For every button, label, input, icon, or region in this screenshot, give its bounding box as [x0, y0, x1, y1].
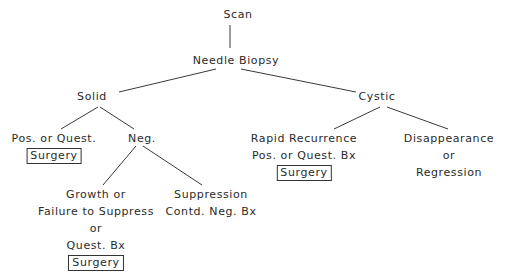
node-disappearance-line-3: Regression	[404, 164, 494, 181]
surgery-box: Surgery	[68, 255, 123, 271]
node-disappearance-line-2: or	[404, 147, 494, 164]
edge-cystic-rapid-recurrence	[334, 107, 380, 129]
node-growth-line-1: Growth or	[38, 186, 154, 203]
edge-solid-pos	[61, 107, 98, 129]
node-suppression-line-2: Contd. Neg. Bx	[165, 203, 256, 220]
decision-tree-diagram: Scan Needle Biopsy Solid Cystic Pos. or …	[0, 0, 511, 277]
node-suppression: Suppression Contd. Neg. Bx	[165, 186, 256, 220]
node-scan: Scan	[223, 6, 252, 23]
node-growth-line-4: Quest. Bx	[38, 237, 154, 254]
edge-solid-neg	[100, 107, 134, 129]
node-solid-pos: Pos. or Quest. Surgery	[12, 130, 97, 164]
node-rapid-recurrence-line-2: Pos. or Quest. Bx	[251, 147, 357, 164]
edge-needle-biopsy-solid	[119, 69, 216, 92]
node-growth: Growth or Failure to Suppress or Quest. …	[38, 186, 154, 271]
node-suppression-line-1: Suppression	[165, 186, 256, 203]
node-solid-label: Solid	[77, 88, 107, 105]
node-needle-biopsy: Needle Biopsy	[193, 52, 279, 69]
node-disappearance-line-1: Disappearance	[404, 130, 494, 147]
node-disappearance: Disappearance or Regression	[404, 130, 494, 181]
node-cystic: Cystic	[359, 88, 396, 105]
surgery-box: Surgery	[276, 165, 331, 181]
node-solid-neg: Neg.	[128, 130, 156, 147]
edge-neg-suppression	[143, 146, 202, 185]
edge-neg-growth	[103, 146, 136, 185]
node-growth-line-3: or	[38, 220, 154, 237]
node-rapid-recurrence-line-1: Rapid Recurrence	[251, 130, 357, 147]
surgery-box: Surgery	[26, 148, 81, 164]
edge-cystic-disappearance	[387, 107, 448, 129]
node-scan-label: Scan	[223, 6, 252, 23]
node-needle-biopsy-label: Needle Biopsy	[193, 52, 279, 69]
node-rapid-recurrence: Rapid Recurrence Pos. or Quest. Bx Surge…	[251, 130, 357, 181]
node-solid-neg-label: Neg.	[128, 130, 156, 147]
node-solid: Solid	[77, 88, 107, 105]
node-solid-pos-label: Pos. or Quest.	[12, 130, 97, 147]
edge-needle-biopsy-cystic	[241, 69, 356, 92]
node-growth-line-2: Failure to Suppress	[38, 203, 154, 220]
node-cystic-label: Cystic	[359, 88, 396, 105]
